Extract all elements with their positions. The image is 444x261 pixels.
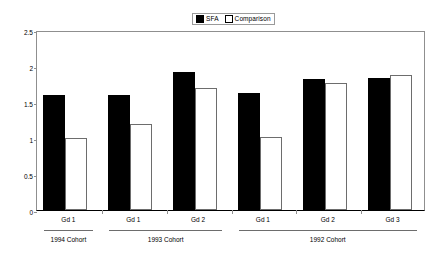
legend-label-comparison: Comparison	[235, 16, 271, 23]
cohort-group: 1993 Cohort	[109, 230, 223, 243]
bar-comparison	[325, 83, 347, 210]
x-axis-category-label: Gd 1	[231, 216, 296, 223]
bar-group	[37, 32, 102, 210]
legend-entry-comparison: Comparison	[225, 15, 271, 23]
x-axis-labels: Gd 1Gd 1Gd 2Gd 1Gd 2Gd 3	[36, 216, 425, 230]
y-axis-tick-mark	[34, 212, 37, 213]
legend-label-sfa: SFA	[206, 16, 219, 23]
bar-group	[296, 32, 361, 210]
bar-sfa	[43, 95, 65, 210]
bar-group	[167, 32, 232, 210]
cohort-group-rule	[239, 230, 418, 231]
legend-entry-sfa: SFA	[196, 15, 219, 23]
x-axis-category-label: Gd 1	[36, 216, 101, 223]
cohort-group-rule	[44, 230, 93, 231]
bar-comparison	[195, 88, 217, 210]
chart-legend: SFA Comparison	[192, 13, 275, 25]
bar-comparison	[130, 124, 152, 210]
bar-group	[232, 32, 297, 210]
cohort-group: 1994 Cohort	[44, 230, 93, 243]
bar-sfa	[303, 79, 325, 210]
cohort-group-label: 1994 Cohort	[44, 236, 93, 243]
bar-sfa	[173, 72, 195, 210]
cohort-group-labels: 1994 Cohort1993 Cohort1992 Cohort	[36, 230, 425, 256]
bar-comparison	[65, 138, 87, 210]
bar-sfa	[368, 78, 390, 210]
x-axis-tick-mark	[361, 210, 362, 214]
x-axis-category-label: Gd 2	[295, 216, 360, 223]
legend-swatch-filled-icon	[196, 15, 204, 23]
bar-chart: SFA Comparison 00.511.522.5 Gd 1Gd 1Gd 2…	[0, 0, 444, 261]
bar-comparison	[260, 137, 282, 210]
bar-group	[361, 32, 426, 210]
x-axis-category-label: Gd 3	[360, 216, 425, 223]
x-axis-tick-mark	[296, 210, 297, 214]
plot-area: 00.511.522.5	[36, 31, 425, 211]
cohort-group-label: 1993 Cohort	[109, 236, 223, 243]
x-axis-category-label: Gd 2	[166, 216, 231, 223]
bar-comparison	[390, 75, 412, 210]
bars-layer	[37, 32, 424, 210]
cohort-group-rule	[109, 230, 223, 231]
bar-sfa	[108, 95, 130, 210]
x-axis-tick-mark	[102, 210, 103, 214]
cohort-group-label: 1992 Cohort	[239, 236, 418, 243]
cohort-group: 1992 Cohort	[239, 230, 418, 243]
legend-swatch-open-icon	[225, 15, 233, 23]
x-axis-category-label: Gd 1	[101, 216, 166, 223]
x-axis-tick-mark	[232, 210, 233, 214]
x-axis-tick-mark	[167, 210, 168, 214]
bar-group	[102, 32, 167, 210]
bar-sfa	[238, 93, 260, 210]
